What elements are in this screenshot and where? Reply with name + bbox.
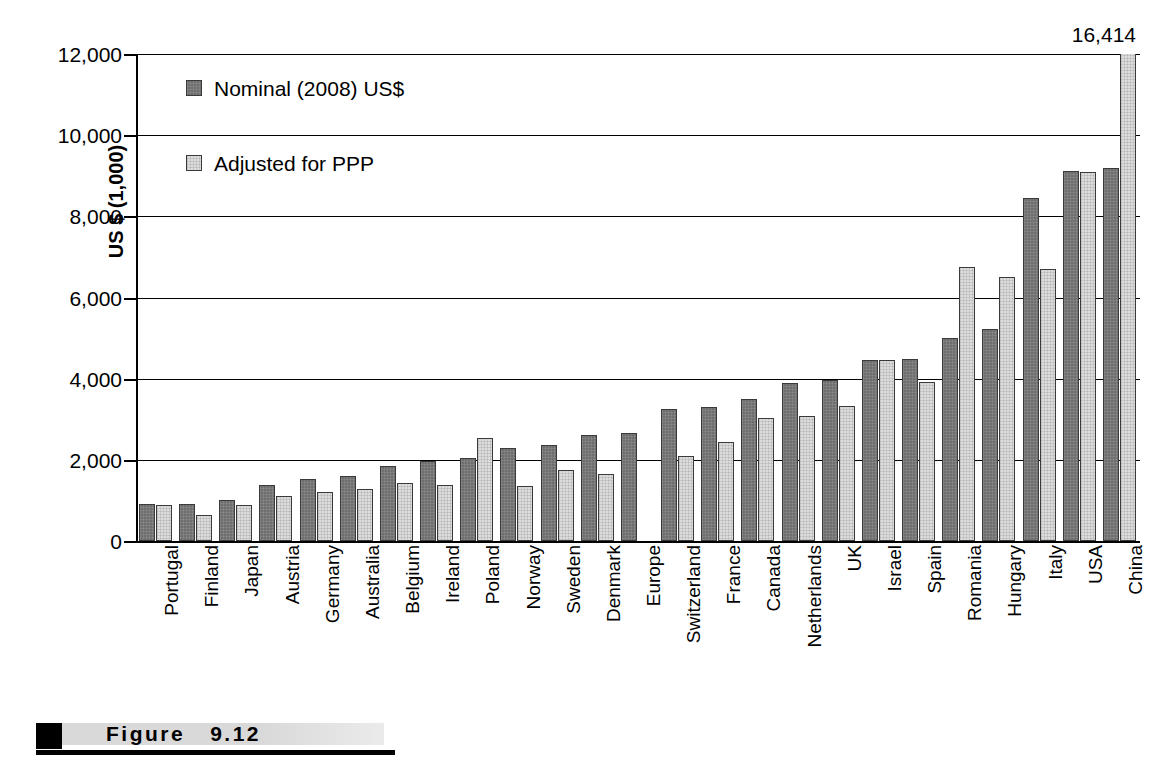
bar-nominal-japan [219,500,235,541]
x-label-france: France [724,545,743,675]
x-label-switzerland: Switzerland [684,545,703,675]
bar-nominal-romania [942,338,958,541]
bar-nominal-norway [500,448,516,541]
y-tick-label-2000: 2,000 [2,450,122,471]
bar-nominal-denmark [581,435,597,541]
bar-nominal-israel [862,360,878,541]
x-label-norway: Norway [524,545,543,675]
legend-item-ppp: Adjusted for PPP [186,148,606,178]
bar-group-portugal [139,54,174,541]
bar-ppp-denmark [598,474,614,541]
bar-nominal-poland [460,458,476,541]
x-label-sweden: Sweden [564,545,583,675]
legend-swatch-ppp-icon [186,155,202,171]
bar-ppp-japan [236,505,252,541]
x-label-austria: Austria [283,545,302,675]
bar-nominal-austria [259,485,275,541]
bar-group-spain [902,54,937,541]
bar-ppp-switzerland [678,456,694,541]
bar-nominal-spain [902,359,918,541]
legend-label-ppp: Adjusted for PPP [214,153,374,174]
legend-swatch-nominal-icon [186,80,202,96]
bar-nominal-hungary [982,329,998,541]
bar-group-canada [741,54,776,541]
bar-ppp-belgium [397,483,413,541]
x-label-finland: Finland [202,545,221,675]
bar-ppp-finland [196,515,212,541]
y-tick-label-12000: 12,000 [2,44,122,65]
x-axis-labels: PortugalFinlandJapanAustriaGermanyAustra… [136,545,1140,675]
bar-group-france [701,54,736,541]
x-label-europe: Europe [644,545,663,675]
bar-nominal-sweden [541,445,557,541]
bar-ppp-portugal [156,505,172,541]
bar-ppp-norway [517,486,533,541]
bar-nominal-europe [621,433,637,541]
bar-ppp-poland [477,438,493,541]
bar-nominal-netherlands [782,383,798,541]
y-tick-label-8000: 8,000 [2,206,122,227]
bar-nominal-portugal [139,504,155,541]
legend-label-nominal: Nominal (2008) US$ [214,78,404,99]
x-label-canada: Canada [764,545,783,675]
bar-group-usa [1063,54,1098,541]
bar-nominal-belgium [380,466,396,541]
bar-ppp-ireland [437,485,453,541]
x-label-belgium: Belgium [403,545,422,675]
bar-ppp-spain [919,382,935,541]
bar-ppp-hungary [999,277,1015,541]
bar-group-uk [822,54,857,541]
legend-item-nominal: Nominal (2008) US$ [186,73,606,103]
caption-marker-square [36,723,62,749]
y-tick-label-4000: 4,000 [2,369,122,390]
x-label-israel: Israel [885,545,904,675]
bar-nominal-france [701,407,717,541]
bar-group-romania [942,54,977,541]
x-label-australia: Australia [363,545,382,675]
x-label-italy: Italy [1046,545,1065,675]
caption-text: Figure 9.12 [106,722,261,746]
x-label-denmark: Denmark [604,545,623,675]
bar-ppp-israel [879,360,895,541]
bar-ppp-canada [758,418,774,541]
bar-nominal-canada [741,399,757,541]
x-label-china: China [1126,545,1145,675]
bar-group-netherlands [782,54,817,541]
y-tick-label-6000: 6,000 [2,288,122,309]
bar-ppp-italy [1040,269,1056,541]
bar-ppp-sweden [558,470,574,541]
bar-group-hungary [982,54,1017,541]
bar-ppp-france [718,442,734,541]
x-label-spain: Spain [925,545,944,675]
bar-group-europe [621,54,656,541]
chart-legend: Nominal (2008) US$Adjusted for PPP [186,73,606,223]
caption-rule [36,750,395,755]
bar-ppp-uk [839,406,855,541]
bar-nominal-finland [179,504,195,541]
bar-ppp-australia [357,489,373,541]
x-label-portugal: Portugal [162,545,181,675]
caption-band: Figure 9.12 [62,723,384,745]
bar-group-china [1103,54,1138,541]
bar-ppp-romania [959,267,975,541]
x-label-germany: Germany [323,545,342,675]
x-label-netherlands: Netherlands [805,545,824,675]
y-tick-label-10000: 10,000 [2,125,122,146]
figure-caption: Figure 9.12 [36,723,396,757]
bar-nominal-germany [300,479,316,541]
bar-ppp-germany [317,492,333,541]
bar-nominal-australia [340,476,356,541]
x-label-japan: Japan [242,545,261,675]
x-label-poland: Poland [483,545,502,675]
bar-group-switzerland [661,54,696,541]
x-label-hungary: Hungary [1005,545,1024,675]
y-tick-label-0: 0 [2,531,122,552]
bar-ppp-netherlands [799,416,815,541]
bar-ppp-usa [1080,172,1096,541]
overflow-value-annotation: 16,414 [1072,24,1136,45]
x-label-romania: Romania [965,545,984,675]
bar-nominal-uk [822,380,838,541]
x-label-uk: UK [845,545,864,675]
figure-container: US $ (1,000) 02,0004,0006,0008,00010,000… [0,0,1158,773]
bar-nominal-usa [1063,171,1079,541]
